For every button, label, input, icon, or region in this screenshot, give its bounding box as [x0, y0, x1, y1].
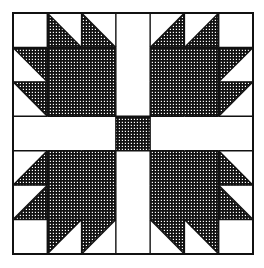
paw-square-bottom-right — [150, 151, 219, 220]
paw-square-top-right — [150, 47, 219, 116]
center-square — [116, 116, 150, 150]
paw-square-bottom-left — [47, 151, 116, 220]
paw-square-top-left — [47, 47, 116, 116]
fabric-pieces — [13, 13, 253, 254]
quilt-block-diagram — [0, 0, 264, 268]
